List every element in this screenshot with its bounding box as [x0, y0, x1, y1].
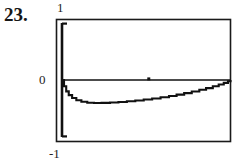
plot-area: [55, 18, 233, 144]
screenshot-root: 23. 1 0 -1: [0, 0, 242, 166]
problem-number-label: 23.: [4, 4, 28, 26]
plot-canvas: [55, 18, 233, 144]
y-axis-max-label: 1: [57, 1, 64, 15]
zero-line-tick: [147, 77, 150, 80]
y-axis-zero-label: 0: [39, 73, 46, 87]
y-axis-min-label: -1: [49, 147, 60, 161]
